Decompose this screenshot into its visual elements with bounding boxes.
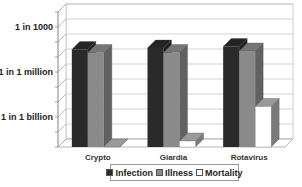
bar-mortality-rotavirus [255, 107, 271, 148]
y-tick-label: 1 in 1 million [0, 67, 53, 77]
legend-item-mortality: Mortality [196, 168, 243, 178]
legend-item-illness: Illness [156, 168, 193, 178]
bar-infection-rotavirus [223, 47, 239, 148]
bar-illness-giardia [164, 53, 180, 148]
bar-infection-giardia [148, 48, 164, 147]
y-tick-label: 1 in 1000 [15, 22, 53, 32]
legend-swatch-infection [106, 169, 113, 176]
bar-side [180, 45, 188, 148]
bar-mortality-giardia [180, 141, 196, 147]
legend-item-infection: Infection [106, 168, 153, 178]
chart-legend: Infection Illness Mortality [110, 164, 239, 181]
legend-swatch-illness [156, 169, 163, 176]
bar-illness-crypto [88, 53, 104, 148]
bar-infection-crypto [72, 50, 88, 148]
legend-label: Mortality [205, 168, 243, 178]
x-category-label: Rotavirus [231, 153, 268, 162]
legend-label: Infection [115, 168, 153, 178]
bar-chart: 1 in 10001 in 1 million1 in 1 billionCry… [0, 0, 302, 187]
bar-side [271, 99, 279, 148]
x-category-label: Giardia [160, 153, 188, 162]
x-category-label: Crypto [85, 153, 111, 162]
y-tick-label: 1 in 1 billion [1, 112, 53, 122]
legend-swatch-mortality [196, 169, 203, 176]
legend-label: Illness [165, 168, 193, 178]
bar-side [104, 45, 112, 148]
bar-illness-rotavirus [239, 51, 255, 147]
